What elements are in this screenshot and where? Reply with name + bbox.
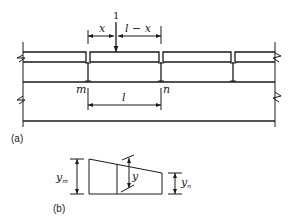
influence-trapezoid (89, 159, 162, 194)
ordinate-y-label: y (131, 170, 139, 183)
support-m-label: m (76, 83, 86, 96)
part-a-caption: (a) (11, 133, 23, 144)
break-mark-right-bottom (273, 92, 281, 102)
ordinate-yn-label: yn (180, 176, 191, 189)
part-a-structure: 1 x l − x m n l (a) (11, 10, 281, 144)
dim-x-label: x (99, 22, 106, 35)
deck-segment-3 (163, 52, 231, 62)
deck-segment-2 (90, 52, 159, 62)
dim-l-minus-x-label: l − x (125, 22, 152, 35)
deck-slab (17, 52, 281, 62)
beam-influence-line-diagram: 1 x l − x m n l (a) ym y yn (b) (0, 0, 294, 221)
break-mark-left-bottom (17, 96, 25, 104)
support-n-label: n (163, 83, 170, 96)
part-b-influence-line: ym y yn (b) (53, 155, 191, 214)
deck-segment-1 (23, 52, 86, 62)
deck-segment-4 (235, 52, 275, 62)
ordinate-ym-label: ym (55, 171, 68, 184)
stringer-posts (85, 62, 236, 82)
span-l-label: l (122, 91, 126, 104)
load-label: 1 (113, 10, 119, 21)
part-b-caption: (b) (53, 203, 65, 214)
break-mark-right-top (273, 53, 281, 62)
break-mark-left-top (17, 55, 25, 62)
